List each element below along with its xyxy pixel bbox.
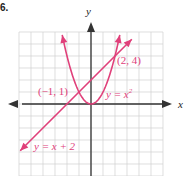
point-label-minus1-1: (−1, 1): [38, 85, 68, 98]
line-label: y = x + 2: [33, 140, 76, 152]
parabola-label-exponent: 2: [129, 87, 133, 95]
parabola-label: y = x2: [105, 87, 133, 100]
axes: [8, 22, 172, 176]
y-axis-label: y: [85, 5, 91, 17]
x-axis-label: x: [177, 98, 183, 110]
x-axis-arrow-left-icon: [8, 100, 18, 108]
parabola-label-text: y = x: [105, 88, 129, 100]
point-label-2-4: (2, 4): [117, 54, 141, 67]
graph: y x (−1, 1) (2, 4) y = x2 y = x + 2: [0, 0, 188, 176]
x-axis-arrow-right-icon: [162, 100, 172, 108]
parabola-arrow-right-icon: [115, 35, 122, 44]
y-axis-arrow-up-icon: [87, 22, 95, 32]
parabola-arrow-left-icon: [60, 35, 67, 44]
